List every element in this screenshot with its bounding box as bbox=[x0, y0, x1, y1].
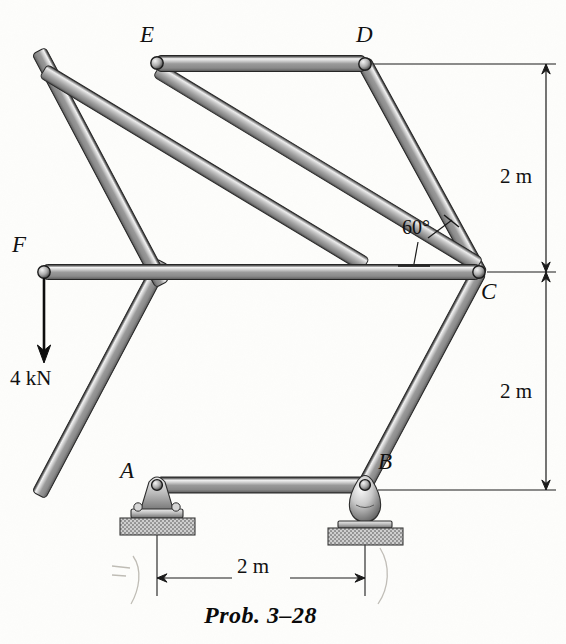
support-b-base-plate bbox=[338, 521, 392, 528]
figure-caption: Prob. 3–28 bbox=[204, 602, 317, 629]
node-label-d: D bbox=[356, 22, 373, 48]
angle-label-60: 60° bbox=[402, 216, 430, 239]
pin-joint-a bbox=[152, 480, 163, 491]
node-label-a: A bbox=[120, 458, 134, 484]
pin-joint-f bbox=[38, 266, 50, 278]
pin-joint-c bbox=[473, 266, 485, 278]
pin-joint-b bbox=[360, 480, 371, 491]
support-a-bolt-left bbox=[134, 503, 142, 511]
node-label-e: E bbox=[140, 22, 154, 48]
support-a-foundation bbox=[120, 518, 195, 535]
dimension-label-horizontal-base: 2 m bbox=[237, 554, 269, 579]
member-AB bbox=[157, 477, 365, 493]
member-ED bbox=[157, 56, 365, 72]
node-label-b: B bbox=[378, 449, 392, 475]
support-a-bolt-right bbox=[172, 503, 180, 511]
pin-joint-e bbox=[151, 57, 163, 69]
node-label-c: C bbox=[481, 279, 496, 305]
truss-figure bbox=[0, 0, 566, 644]
node-label-f: F bbox=[12, 232, 26, 258]
load-label-4kn: 4 kN bbox=[10, 366, 51, 391]
dimension-label-vertical-bottom: 2 m bbox=[500, 379, 532, 404]
dimension-label-vertical-top: 2 m bbox=[500, 164, 532, 189]
support-b-foundation bbox=[328, 528, 403, 545]
pin-joint-d bbox=[359, 58, 371, 70]
